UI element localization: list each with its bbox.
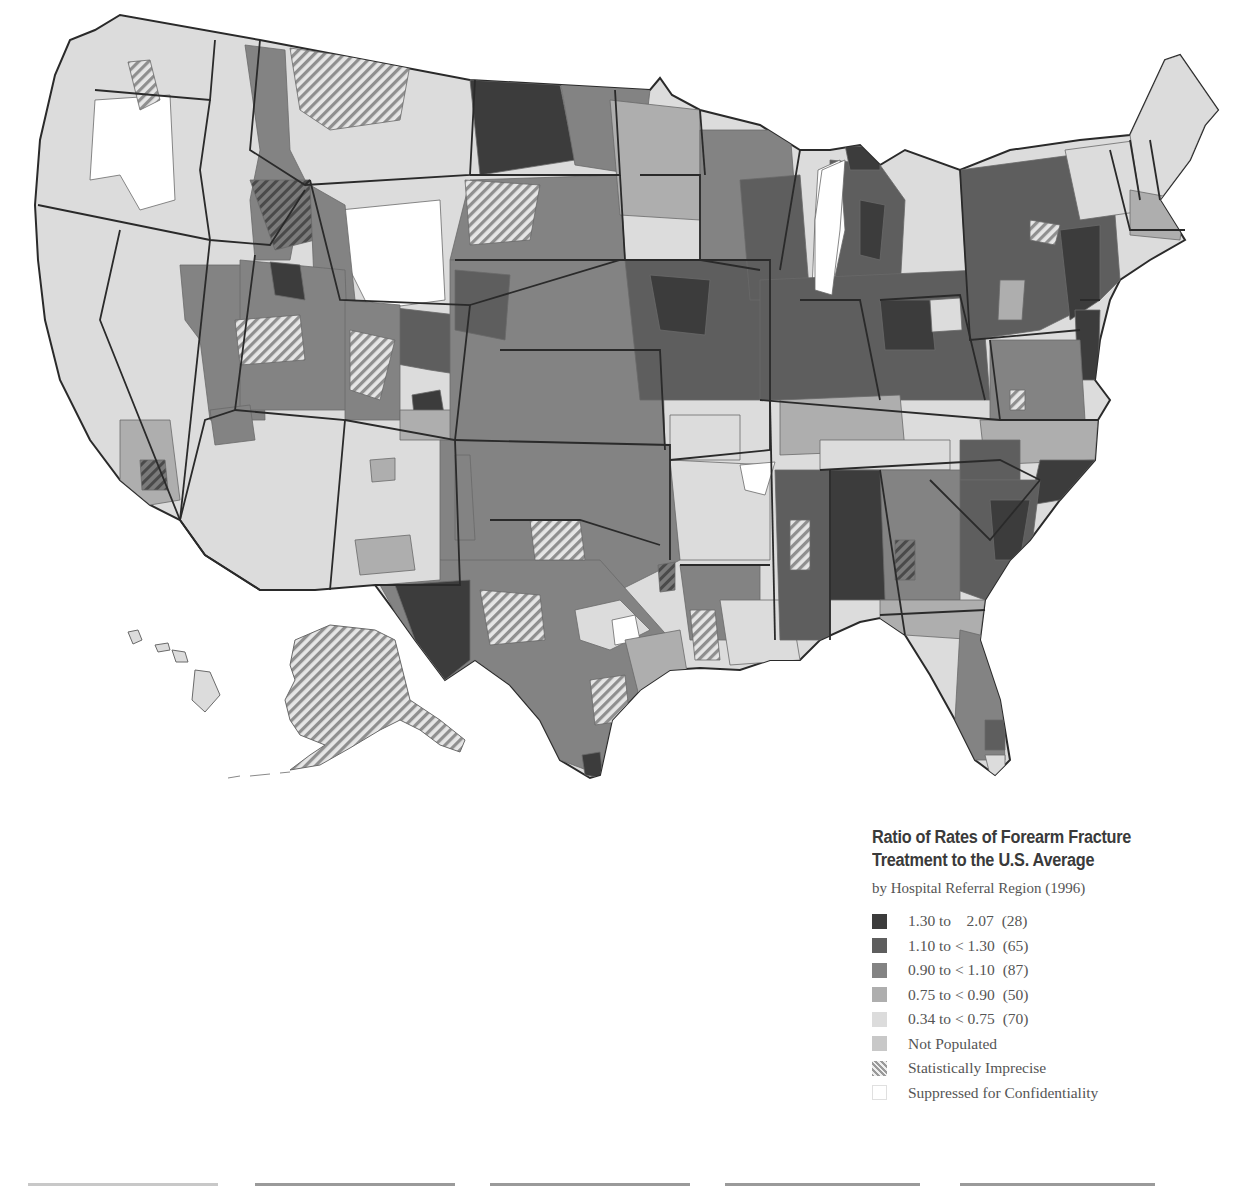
legend-range: 0.90 to < 1.10 [908, 961, 995, 979]
legend-count: (28) [1002, 912, 1028, 930]
map-legend: Ratio of Rates of Forearm Fracture Treat… [872, 826, 1202, 1105]
legend-range: 1.10 to < 1.30 [908, 937, 995, 955]
page-bottom-rules [0, 1183, 1246, 1188]
legend-item-class-2: 1.10 to < 1.30 (65) [872, 934, 1202, 959]
legend-count: (50) [1003, 986, 1029, 1004]
swatch-suppressed-icon [872, 1085, 887, 1100]
divider [490, 1183, 690, 1186]
legend-item-class-4: 0.75 to < 0.90 (50) [872, 983, 1202, 1008]
legend-title-line2: Treatment to the U.S. Average [872, 849, 1179, 872]
swatch-lightest-icon [872, 1012, 887, 1027]
legend-count: (65) [1003, 937, 1029, 955]
legend-item-class-1: 1.30 to 2.07 (28) [872, 909, 1202, 934]
legend-label: Not Populated [908, 1035, 997, 1053]
legend-count: (70) [1003, 1010, 1029, 1028]
divider [725, 1183, 920, 1186]
divider [28, 1183, 218, 1186]
legend-range: 0.75 to < 0.90 [908, 986, 995, 1004]
hawaii-inset [128, 630, 220, 712]
legend-title-line1: Ratio of Rates of Forearm Fracture [872, 826, 1179, 849]
swatch-medium-icon [872, 963, 887, 978]
legend-count: (87) [1003, 961, 1029, 979]
swatch-light-icon [872, 987, 887, 1002]
legend-range: 1.30 to 2.07 [908, 912, 994, 930]
legend-label: Suppressed for Confidentiality [908, 1084, 1098, 1102]
swatch-hatch-icon [872, 1061, 887, 1076]
swatch-darkest-icon [872, 914, 887, 929]
swatch-dark-icon [872, 938, 887, 953]
us-choropleth-map [0, 0, 1246, 800]
legend-item-suppressed: Suppressed for Confidentiality [872, 1081, 1202, 1106]
legend-item-class-3: 0.90 to < 1.10 (87) [872, 958, 1202, 983]
aleutian-islands [228, 772, 290, 778]
legend-subtitle: by Hospital Referral Region (1996) [872, 880, 1202, 897]
divider [960, 1183, 1155, 1186]
swatch-not-populated-icon [872, 1036, 887, 1051]
divider [255, 1183, 455, 1186]
legend-range: 0.34 to < 0.75 [908, 1010, 995, 1028]
legend-item-not-populated: Not Populated [872, 1032, 1202, 1057]
legend-item-class-5: 0.34 to < 0.75 (70) [872, 1007, 1202, 1032]
legend-label: Statistically Imprecise [908, 1059, 1046, 1077]
legend-item-imprecise: Statistically Imprecise [872, 1056, 1202, 1081]
